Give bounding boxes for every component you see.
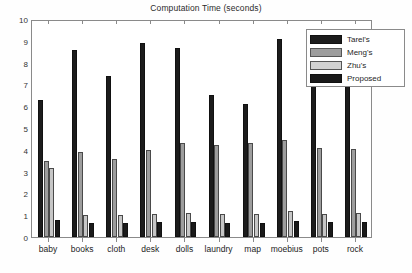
bar-cloth-series3 [123, 223, 128, 237]
bar-cloth-series1 [112, 159, 117, 237]
bar-map-series0 [243, 104, 248, 237]
y-axis-tick-label: 8 [6, 59, 28, 68]
y-axis-tick-label: 3 [6, 168, 28, 177]
legend-item-label: Tarel's [347, 35, 370, 44]
bar-laundry-series2 [220, 214, 225, 237]
bar-rock-series1 [351, 149, 356, 237]
legend-item-label: Meng's [347, 48, 373, 57]
bar-dolls-series2 [186, 213, 191, 237]
bar-map-series2 [254, 214, 259, 237]
legend-item-proposed[interactable]: Proposed [310, 72, 401, 84]
legend-item-label: Proposed [347, 74, 381, 83]
y-axis-tick-label: 0 [6, 234, 28, 243]
bar-pots-series2 [322, 214, 327, 237]
bar-baby-series0 [38, 100, 43, 237]
y-axis-tick-label: 6 [6, 103, 28, 112]
bar-baby-series2 [49, 168, 54, 237]
bar-desk-series0 [140, 43, 145, 237]
bar-moebius-series2 [288, 211, 293, 237]
bar-moebius-series3 [294, 221, 299, 237]
bar-moebius-series1 [282, 140, 287, 237]
bar-cloth-series0 [106, 76, 111, 237]
x-axis-tick-label-laundry: laundry [205, 244, 233, 254]
x-axis-tick-mark [184, 20, 185, 24]
bar-laundry-series3 [225, 223, 230, 237]
bar-desk-series2 [152, 214, 157, 237]
bar-laundry-series0 [209, 95, 214, 237]
x-axis-tick-mark [150, 20, 151, 24]
y-axis-tick-label: 2 [6, 190, 28, 199]
chart-figure: Computation Time (seconds) 012345678910 … [0, 0, 412, 273]
x-axis-tick-mark [355, 20, 356, 24]
x-axis-tick-mark [116, 238, 117, 242]
bar-pots-series3 [328, 222, 333, 237]
x-axis-tick-label-pots: pots [313, 244, 329, 254]
bar-cloth-series2 [118, 215, 123, 237]
legend-item-mengs[interactable]: Meng's [310, 46, 401, 58]
legend-item-zhus[interactable]: Zhu's [310, 59, 401, 71]
x-axis-tick-mark [321, 20, 322, 24]
legend-swatch-icon [310, 48, 342, 57]
x-axis-tick-mark [219, 238, 220, 242]
bar-rock-series3 [362, 222, 367, 237]
x-axis-tick-mark [253, 20, 254, 24]
x-axis-tick-mark [150, 238, 151, 242]
bar-books-series1 [78, 152, 83, 237]
x-axis-tick-label-moebius: moebius [271, 244, 303, 254]
bar-books-series3 [89, 223, 94, 237]
bar-baby-series3 [55, 220, 60, 237]
bar-map-series3 [260, 223, 265, 237]
y-axis-tick-label: 10 [6, 16, 28, 25]
x-axis-tick-label-desk: desk [141, 244, 159, 254]
x-axis-tick-label-cloth: cloth [107, 244, 125, 254]
x-axis-tick-mark [287, 238, 288, 242]
x-axis-tick-mark [48, 20, 49, 24]
x-axis-tick-label-books: books [71, 244, 94, 254]
legend-swatch-icon [310, 61, 342, 70]
bar-dolls-series1 [180, 143, 185, 237]
x-axis-tick-label-map: map [244, 244, 261, 254]
x-axis-tick-label-rock: rock [347, 244, 363, 254]
y-axis-tick-label: 1 [6, 212, 28, 221]
bar-laundry-series1 [214, 145, 219, 237]
legend-item-tarels[interactable]: Tarel's [310, 33, 401, 45]
x-axis-tick-mark [82, 238, 83, 242]
legend-swatch-icon [310, 35, 342, 44]
x-axis-tick-mark [287, 20, 288, 24]
x-axis-tick-mark [321, 238, 322, 242]
y-axis-tick-label: 5 [6, 125, 28, 134]
bar-baby-series1 [44, 161, 49, 237]
legend-item-label: Zhu's [347, 61, 366, 70]
y-axis-tick-label: 9 [6, 37, 28, 46]
y-axis-tick-label: 4 [6, 146, 28, 155]
bar-moebius-series0 [277, 39, 282, 237]
bar-books-series0 [72, 50, 77, 237]
y-axis-tick-label: 7 [6, 81, 28, 90]
bar-books-series2 [83, 215, 88, 237]
x-axis-tick-label-baby: baby [39, 244, 57, 254]
x-axis-tick-mark [116, 20, 117, 24]
bar-dolls-series3 [191, 222, 196, 237]
bar-desk-series3 [157, 222, 162, 237]
x-axis-tick-label-dolls: dolls [176, 244, 193, 254]
bar-desk-series1 [146, 150, 151, 237]
chart-title: Computation Time (seconds) [0, 3, 412, 13]
legend-swatch-icon [310, 74, 342, 83]
bar-map-series1 [248, 143, 253, 237]
bar-rock-series2 [356, 213, 361, 237]
x-axis-tick-mark [219, 20, 220, 24]
bar-pots-series1 [317, 148, 322, 237]
bar-dolls-series0 [175, 48, 180, 237]
x-axis-tick-mark [253, 238, 254, 242]
x-axis-tick-mark [82, 20, 83, 24]
chart-legend: Tarel'sMeng'sZhu'sProposed [306, 29, 405, 87]
x-axis-tick-mark [48, 238, 49, 242]
bar-pots-series0 [311, 82, 316, 237]
x-axis-tick-mark [355, 238, 356, 242]
x-axis-tick-mark [184, 238, 185, 242]
